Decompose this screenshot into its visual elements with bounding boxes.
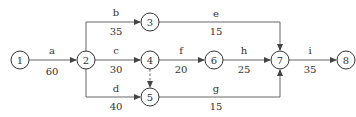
label-e: e	[213, 8, 219, 19]
label-b: b	[113, 7, 119, 18]
label-c: c	[113, 45, 119, 56]
node-6: 6	[205, 51, 223, 69]
node-label: 2	[83, 55, 89, 66]
duration-f: 20	[175, 64, 188, 75]
network-diagram: a 60 b 35 c 30 d 40 e 15 f 20 g 15 h 25 …	[0, 0, 356, 117]
duration-i: 35	[304, 64, 317, 75]
duration-g: 15	[210, 101, 223, 112]
duration-d: 40	[110, 101, 123, 112]
node-label: 1	[17, 55, 23, 66]
duration-c: 30	[110, 64, 123, 75]
node-label: 7	[277, 55, 283, 66]
label-d: d	[113, 83, 120, 94]
node-label: 3	[147, 17, 153, 28]
node-8: 8	[337, 51, 355, 69]
node-4: 4	[141, 51, 159, 69]
label-a: a	[49, 45, 55, 56]
node-3: 3	[141, 13, 159, 31]
node-2: 2	[77, 51, 95, 69]
node-label: 4	[147, 55, 153, 66]
node-5: 5	[141, 88, 159, 106]
node-label: 5	[147, 92, 153, 103]
duration-b: 35	[110, 26, 123, 37]
label-h: h	[241, 45, 248, 56]
node-1: 1	[11, 51, 29, 69]
node-7: 7	[271, 51, 289, 69]
node-label: 6	[211, 55, 217, 66]
node-label: 8	[343, 55, 349, 66]
label-i: i	[308, 45, 311, 56]
duration-a: 60	[46, 66, 59, 77]
label-f: f	[179, 45, 184, 56]
duration-h: 25	[238, 64, 251, 75]
label-g: g	[213, 83, 220, 94]
duration-e: 15	[210, 26, 223, 37]
